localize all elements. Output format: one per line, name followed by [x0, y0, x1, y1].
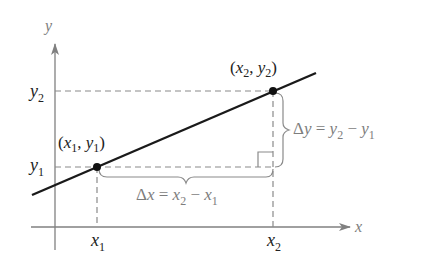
slope-diagram: y x y2 y1 x1 x2 (x1, y1) (x2, y2) Δx = x…	[0, 0, 421, 260]
delta-x-label: Δx = x2 − x1	[136, 185, 218, 208]
tick-label-y1: y1	[28, 155, 44, 179]
delta-y-label: Δy = y2 − y1	[293, 119, 375, 142]
tick-label-x1: x1	[90, 230, 105, 254]
diagram-svg: y x y2 y1 x1 x2 (x1, y1) (x2, y2) Δx = x…	[0, 0, 421, 260]
right-angle-marker	[258, 152, 273, 167]
y-axis-label: y	[43, 17, 53, 35]
delta-y-brace	[275, 93, 289, 167]
point-label-x2-y2: (x2, y2)	[230, 58, 277, 80]
point-label-x1-y1: (x1, y1)	[58, 133, 105, 155]
point-x2-y2	[269, 87, 277, 95]
tick-label-y2: y2	[28, 81, 44, 105]
point-x1-y1	[93, 163, 101, 171]
delta-x-brace	[99, 169, 273, 183]
tick-label-x2: x2	[266, 230, 281, 254]
x-axis-label: x	[354, 218, 362, 235]
